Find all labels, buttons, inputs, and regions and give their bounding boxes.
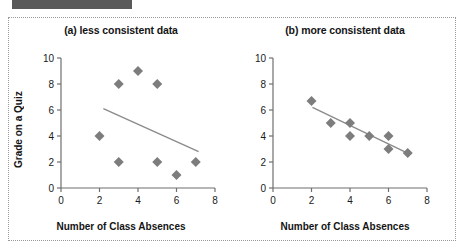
data-point-marker (114, 79, 124, 89)
x-tick-label: 2 (97, 195, 103, 206)
y-tick-label: 8 (48, 79, 54, 90)
redacted-header-bar (12, 0, 132, 9)
x-tick-label: 8 (424, 195, 430, 206)
y-tick-label: 6 (48, 105, 54, 116)
x-tick-label: 6 (174, 195, 180, 206)
x-tick-label: 0 (270, 195, 276, 206)
x-tick-label: 2 (309, 195, 315, 206)
y-tick-label: 10 (43, 53, 55, 64)
trend-line (103, 109, 198, 152)
data-point-marker (95, 131, 105, 141)
x-tick-label: 0 (58, 195, 64, 206)
x-tick-label: 4 (347, 195, 353, 206)
chart-a-plot: 024681002468 (9, 18, 233, 242)
chart-panel-a: (a) less consistent data Grade on a Quiz… (9, 18, 233, 242)
data-point-marker (133, 66, 143, 76)
y-tick-label: 4 (260, 131, 266, 142)
data-point-marker (326, 118, 336, 128)
data-point-marker (172, 170, 182, 180)
x-tick-label: 6 (386, 195, 392, 206)
x-tick-label: 4 (135, 195, 141, 206)
y-tick-label: 10 (255, 53, 267, 64)
figure-frame: (a) less consistent data Grade on a Quiz… (8, 17, 456, 241)
figure-inner: (a) less consistent data Grade on a Quiz… (9, 18, 457, 242)
chart-panel-b: (b) more consistent data 024681002468 Nu… (233, 18, 457, 242)
chart-b-plot: 024681002468 (233, 18, 457, 242)
data-point-marker (152, 157, 162, 167)
data-point-marker (345, 131, 355, 141)
data-point-marker (307, 96, 317, 106)
data-point-marker (384, 131, 394, 141)
y-tick-label: 4 (48, 131, 54, 142)
y-tick-label: 0 (48, 183, 54, 194)
data-point-marker (191, 157, 201, 167)
y-tick-label: 0 (260, 183, 266, 194)
trend-line (312, 107, 409, 154)
y-tick-label: 2 (48, 157, 54, 168)
y-tick-label: 6 (260, 105, 266, 116)
y-tick-label: 2 (260, 157, 266, 168)
data-point-marker (114, 157, 124, 167)
chart-a-x-axis-title: Number of Class Absences (9, 221, 233, 232)
x-tick-label: 8 (212, 195, 218, 206)
data-point-marker (403, 148, 413, 158)
y-tick-label: 8 (260, 79, 266, 90)
data-point-marker (152, 79, 162, 89)
chart-b-x-axis-title: Number of Class Absences (233, 221, 457, 232)
